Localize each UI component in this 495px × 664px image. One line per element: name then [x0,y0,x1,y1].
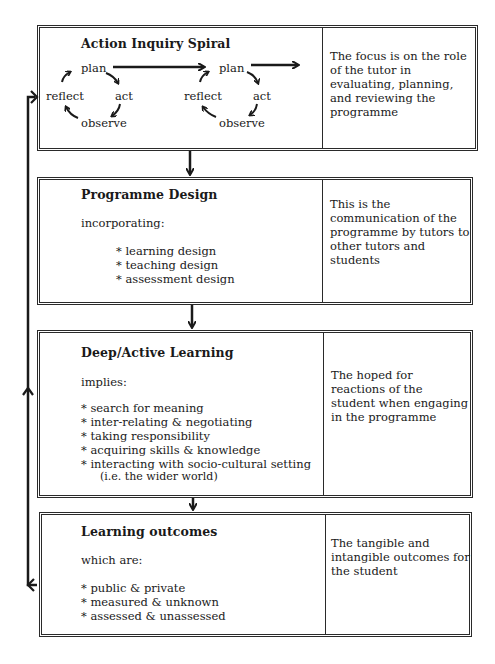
feedback-loop-arrow-icon [23,91,37,591]
cycle-arrows-icon [62,72,120,118]
cycle-arrows-icon [200,72,258,117]
arrows-overlay [0,0,495,664]
